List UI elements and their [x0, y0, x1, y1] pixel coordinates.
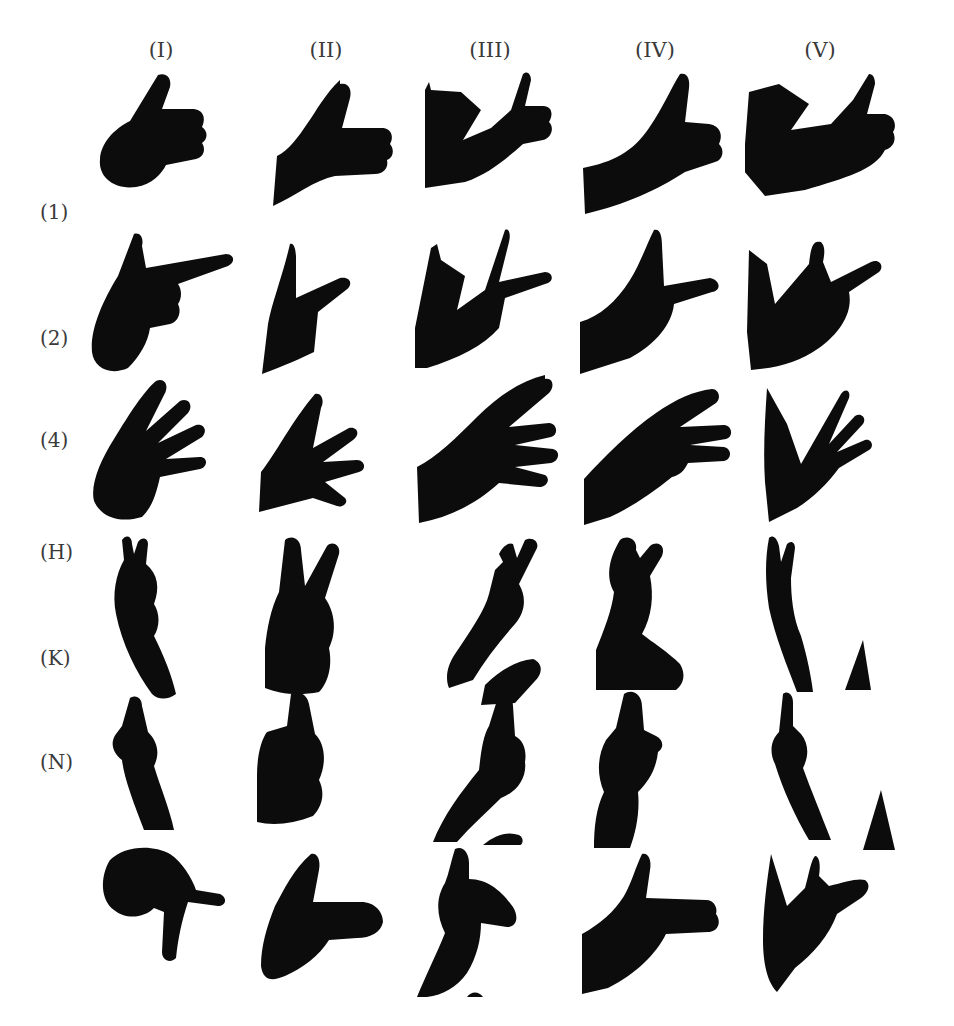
pointing-hand-icon — [580, 228, 740, 378]
two-finger-hand-icon — [745, 850, 895, 1000]
two-finger-hand-icon — [415, 530, 570, 705]
column-label-iii: (III) — [469, 38, 510, 62]
two-finger-hand-icon — [90, 530, 200, 700]
thumbs-up-icon — [255, 80, 405, 210]
raised-finger-hand-icon — [255, 690, 375, 840]
thumbs-up-icon — [580, 72, 735, 217]
row-label-1: (1) — [40, 200, 68, 224]
raised-finger-hand-icon — [90, 690, 200, 835]
row-label-n: (N) — [40, 750, 73, 774]
pointing-hand-icon — [745, 240, 910, 385]
pointing-hand-icon — [415, 228, 575, 378]
two-finger-hand-icon — [580, 530, 710, 705]
thumbs-up-icon — [415, 72, 565, 212]
thumbs-up-icon — [90, 70, 240, 195]
column-label-iv: (IV) — [635, 38, 675, 62]
open-hand-icon — [90, 375, 240, 520]
open-hand-icon — [745, 380, 905, 530]
raised-finger-hand-icon — [580, 690, 720, 850]
raised-finger-hand-icon — [745, 690, 905, 850]
raised-finger-hand-icon — [415, 690, 565, 845]
pointing-hand-icon — [90, 230, 245, 380]
two-finger-hand-icon — [745, 530, 885, 705]
gun-hand-icon — [580, 850, 730, 995]
gun-hand-icon — [255, 850, 405, 990]
pointing-down-hand-icon — [90, 840, 230, 965]
column-label-v: (V) — [804, 38, 836, 62]
open-hand-icon — [580, 385, 740, 530]
row-label-2: (2) — [40, 326, 68, 350]
open-hand-icon — [415, 375, 575, 525]
column-label-i: (I) — [149, 38, 174, 62]
hand-gesture-figure: (I) (II) (III) (IV) (V) (1) (2) (4) (H) … — [0, 0, 954, 1026]
two-finger-hand-icon — [255, 530, 370, 700]
thumbs-up-icon — [745, 72, 905, 202]
column-label-ii: (II) — [310, 38, 343, 62]
row-label-h: (H) — [40, 540, 73, 564]
row-label-k: (K) — [40, 646, 71, 670]
gun-hand-icon — [415, 845, 555, 1000]
row-label-4: (4) — [40, 428, 68, 452]
open-hand-icon — [255, 390, 395, 515]
pointing-hand-icon — [255, 240, 390, 375]
